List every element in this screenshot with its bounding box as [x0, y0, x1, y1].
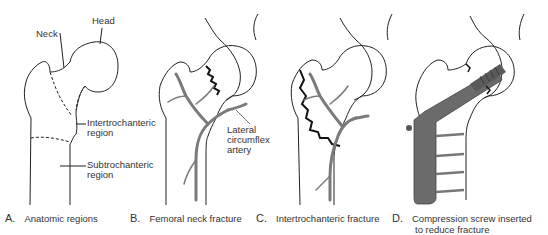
- caption-c-letter: C.: [256, 212, 267, 224]
- caption-a: A.Anatomic regions: [5, 213, 98, 224]
- caption-c-text: Intertrochanteric fracture: [276, 213, 380, 224]
- caption-d: D.Compression screw inserted: [392, 213, 532, 224]
- caption-b-letter: B.: [130, 212, 140, 224]
- label-artery-line3: artery: [227, 145, 251, 156]
- panel-c-artery: [304, 74, 368, 200]
- caption-a-letter: A.: [5, 212, 15, 224]
- label-subtrochanteric-line2: region: [87, 170, 113, 181]
- panel-d-implant: [406, 64, 506, 204]
- artery-leader-line: [236, 110, 250, 124]
- caption-a-text: Anatomic regions: [24, 213, 97, 224]
- panel-b-femur: [159, 14, 258, 205]
- caption-d-line2: to reduce fracture: [415, 224, 489, 235]
- panel-c-fracture-line: [300, 70, 340, 146]
- panel-b-fracture-line: [206, 66, 219, 95]
- caption-b: B.Femoral neck fracture: [130, 213, 242, 224]
- caption-d-letter: D.: [392, 212, 403, 224]
- caption-c: C.Intertrochanteric fracture: [256, 213, 380, 224]
- label-neck: Neck: [36, 29, 58, 40]
- caption-b-text: Femoral neck fracture: [149, 213, 241, 224]
- femur-diagram-art: [0, 0, 548, 235]
- label-intertrochanteric-line2: region: [87, 128, 113, 139]
- label-head: Head: [92, 16, 115, 27]
- caption-d-text-line1: Compression screw inserted: [412, 213, 532, 224]
